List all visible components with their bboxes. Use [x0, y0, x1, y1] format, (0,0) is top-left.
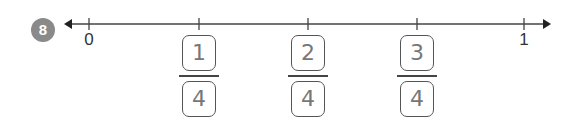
denominator-input[interactable]: 4: [400, 81, 434, 117]
numerator-input[interactable]: 1: [182, 35, 216, 71]
fraction-bar: [288, 75, 328, 77]
left-arrow-icon: [64, 19, 72, 29]
numerator-input[interactable]: 3: [400, 35, 434, 71]
right-arrow-icon: [543, 19, 551, 29]
fraction-answer-1: 1 4: [181, 35, 217, 117]
fraction-answer-2: 2 4: [290, 35, 326, 117]
numerator-input[interactable]: 2: [291, 35, 325, 71]
fraction-bar: [397, 75, 437, 77]
denominator-input[interactable]: 4: [291, 81, 325, 117]
denominator-input[interactable]: 4: [182, 81, 216, 117]
tick-label-zero: 0: [79, 30, 99, 50]
fraction-bar: [179, 75, 219, 77]
tick-label-one: 1: [514, 30, 534, 50]
fraction-answer-3: 3 4: [399, 35, 435, 117]
